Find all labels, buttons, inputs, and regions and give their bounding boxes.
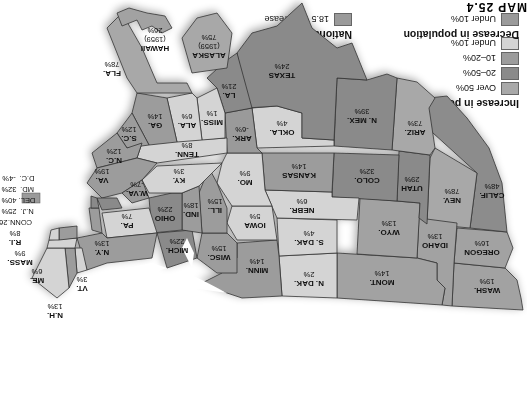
state-label: W.VA. <box>126 189 148 198</box>
state-label: 15% <box>211 244 226 253</box>
state-label: 32% <box>1 185 16 194</box>
state-label: 18% <box>183 201 198 210</box>
rotated-map-page: MAP 25.4 Increase in population Over 50%… <box>0 0 527 398</box>
state-label: 12% <box>106 147 121 156</box>
state-label: 12% <box>121 125 136 134</box>
state-label: OHIO <box>155 214 175 223</box>
state-ariz <box>392 78 435 155</box>
state-label: 9% <box>14 249 25 258</box>
state-label: 73% <box>407 119 422 128</box>
state-label: N.C. <box>106 156 122 165</box>
state-ri <box>49 228 59 240</box>
state-label: CONN. <box>8 218 32 227</box>
state-label: 7% <box>121 212 132 221</box>
state-label: R.I. <box>9 238 21 247</box>
state-label: N. MEX. <box>347 116 377 125</box>
state-label: IDAHO <box>422 241 448 250</box>
state-label: MONT. <box>370 278 395 287</box>
state-label: 29% <box>404 175 419 184</box>
state-label: ME. <box>30 276 44 285</box>
state-label: 13% <box>427 232 442 241</box>
state-md <box>97 198 122 210</box>
state-label: 21% <box>221 82 236 91</box>
state-label: OREGON <box>464 248 500 257</box>
state-label: DEL. <box>19 196 36 205</box>
state-label: 14% <box>249 257 264 266</box>
state-label: 22% <box>157 205 172 214</box>
state-label: ALA. <box>178 121 197 130</box>
state-label: 13% <box>381 219 396 228</box>
state-label: N.J. <box>20 207 33 216</box>
state-label: 8% <box>9 229 20 238</box>
state-label: MISS. <box>201 118 223 127</box>
state-label: 13% <box>94 239 109 248</box>
state-label: 22% <box>169 237 184 246</box>
state-label: 78% <box>444 187 459 196</box>
state-label: 3% <box>76 275 87 284</box>
state-label: NEBR. <box>290 206 315 215</box>
state-label: 75% <box>201 33 216 42</box>
state-label: 5% <box>249 212 260 221</box>
state-label: MO. <box>237 178 252 187</box>
state-label: WASH. <box>474 286 500 295</box>
state-label: GA. <box>148 121 162 130</box>
state-label: MASS. <box>7 258 32 267</box>
state-label: 4% <box>303 229 314 238</box>
state-label: 16% <box>474 239 489 248</box>
state-label: (1959) <box>144 35 166 44</box>
state-label: 6% <box>181 112 192 121</box>
state-label: 39% <box>354 107 369 116</box>
state-label: FLA. <box>103 69 121 78</box>
state-label: 6% <box>296 197 307 206</box>
state-label: MICH. <box>166 246 189 255</box>
state-label: S.C. <box>121 134 137 143</box>
state-label: KANSAS <box>281 171 315 180</box>
state-label: IND. <box>183 210 199 219</box>
state-label: KY. <box>173 176 185 185</box>
state-label: 1% <box>206 109 217 118</box>
state-label: 24% <box>274 62 289 71</box>
state-label: 19% <box>479 277 494 286</box>
state-label: 78% <box>104 60 119 69</box>
state-label: (1959) <box>198 42 220 51</box>
state-label: -4% <box>2 174 16 183</box>
state-label: TEXAS <box>268 71 295 80</box>
state-label: 15% <box>207 197 222 206</box>
state-label: 19% <box>94 167 109 176</box>
state-nj <box>89 208 102 233</box>
state-label: N.H. <box>47 311 63 320</box>
state-label: -6% <box>235 125 249 134</box>
state-label: 3% <box>173 167 184 176</box>
state-label: OKLA. <box>270 128 295 137</box>
state-label: UTAH <box>401 184 423 193</box>
state-label: COLO. <box>354 176 379 185</box>
state-label: -7% <box>130 180 144 189</box>
state-conn <box>59 226 77 240</box>
state-label: WISC. <box>207 253 230 262</box>
state-label: MINN. <box>246 266 269 275</box>
state-label: HAWAII <box>141 44 169 53</box>
state-label: PA. <box>121 221 134 230</box>
state-label: IOWA <box>244 221 266 230</box>
state-label: CALIF. <box>480 191 505 200</box>
state-label: ILL. <box>208 206 222 215</box>
state-label: S. DAK. <box>294 238 323 247</box>
state-label: 40% <box>1 196 16 205</box>
state-label: MD. <box>20 185 34 194</box>
state-label: N.Y. <box>95 248 110 257</box>
state-label: TENN. <box>175 150 199 159</box>
state-label: NEV. <box>443 196 461 205</box>
state-label: WYO. <box>378 228 399 237</box>
state-label: ALASKA <box>192 51 226 60</box>
state-label: 14% <box>291 162 306 171</box>
state-label: VA. <box>96 176 109 185</box>
state-label: ARIZ. <box>405 128 426 137</box>
state-label: N. DAK. <box>294 279 324 288</box>
state-label: 14% <box>374 269 389 278</box>
state-label: VT. <box>76 284 88 293</box>
state-label: 26% <box>147 26 162 35</box>
state-label: 13% <box>47 302 62 311</box>
state-label: 25% <box>1 207 16 216</box>
state-label: 8% <box>181 141 192 150</box>
state-label: 2% <box>303 270 314 279</box>
